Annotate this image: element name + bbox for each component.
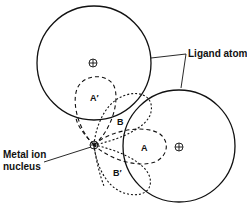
metal-ion-label-line2: nucleus <box>3 162 41 172</box>
metal-nucleus-icon <box>90 141 98 149</box>
orbital-lobe-b-prime-outer <box>94 145 104 186</box>
ligand-atoms-leader <box>151 54 186 88</box>
metal-ion-label: Metal ion <box>3 150 46 160</box>
ligand-field-diagram <box>0 0 247 208</box>
orbital-lobe-a <box>94 129 166 164</box>
ligand-nucleus-upper-icon <box>89 59 97 67</box>
metal-ion-leader <box>44 147 91 162</box>
orbital-lobe-a-prime-outer <box>76 118 94 145</box>
orbital-label-a-prime: A′ <box>90 94 99 103</box>
orbital-label-b-prime: B′ <box>113 169 122 178</box>
orbital-lobe-a-prime <box>75 77 116 145</box>
orbital-label-b: B <box>117 118 124 127</box>
orbital-label-a: A <box>141 144 148 153</box>
ligand-atoms-label: Ligand atoms <box>188 49 247 59</box>
ligand-nucleus-lower-icon <box>175 143 183 151</box>
